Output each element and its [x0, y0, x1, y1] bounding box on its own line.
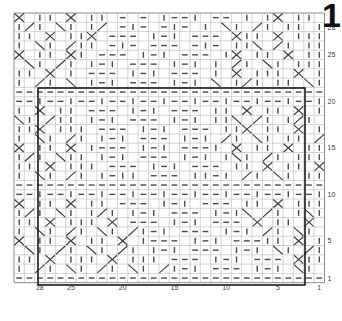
x-axis-tick: 20	[119, 284, 127, 291]
x-axis-tick: 25	[67, 284, 75, 291]
x-axis-tick: 1	[317, 284, 321, 291]
knitting-chart: 282520151051 282520151051	[0, 0, 342, 321]
chart-canvas: 282520151051 282520151051	[0, 0, 342, 321]
y-axis-labels: 282520151051	[328, 24, 336, 282]
y-axis-tick: 1	[328, 275, 332, 282]
y-axis-tick: 20	[328, 98, 336, 105]
y-axis-tick: 5	[328, 237, 332, 244]
x-axis-tick: 10	[222, 284, 230, 291]
y-axis-tick: 25	[328, 51, 336, 58]
x-axis-tick: 28	[36, 284, 44, 291]
repeat-box	[38, 88, 305, 285]
y-axis-tick: 15	[328, 144, 336, 151]
y-axis-tick: 10	[328, 191, 336, 198]
page-title: 1	[322, 0, 340, 32]
x-axis-tick: 15	[171, 284, 179, 291]
x-axis-tick: 5	[276, 284, 280, 291]
chart-page: 282520151051 282520151051 1	[0, 0, 342, 321]
